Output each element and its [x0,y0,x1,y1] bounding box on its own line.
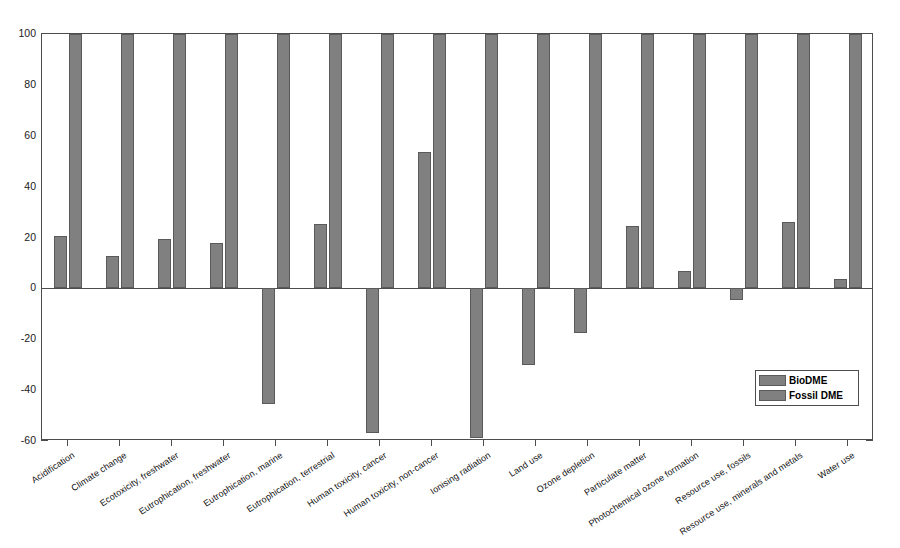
y-axis-labels: 100806040200-20-40-60 [0,0,36,548]
y-axis-tick-label: 100 [18,27,36,39]
x-axis-tick-label: Resource use, fossils [673,450,752,506]
x-axis-tick-label: Eutrophication, terrestrial [245,450,337,514]
x-axis-tick-label: Eutrophication, freshwater [137,450,232,517]
x-axis-tick-mark [639,440,640,446]
bar [626,226,639,288]
bar [121,34,134,288]
legend-entry-biodme: BioDME [759,373,855,388]
y-axis-tick-mark [41,440,48,441]
x-axis-tick-label: Water use [816,450,856,481]
x-axis-tick-label: Acidification [30,450,77,485]
x-axis-tick-label: Photochemical ozone formation [587,450,701,529]
x-axis-tick-label: Human toxicity, cancer [305,450,388,509]
bar [173,34,186,288]
bar [849,34,862,288]
legend-label-biodme: BioDME [789,375,827,386]
y-axis-tick-label: 60 [24,129,36,141]
x-axis-tick-mark [795,440,796,446]
bar [745,34,758,288]
x-axis-tick-mark [275,440,276,446]
chart-figure: 100806040200-20-40-60 AcidificationClima… [0,0,900,548]
y-axis-tick-label: -60 [21,434,36,446]
bar [433,34,446,288]
bar [693,34,706,288]
bar [834,279,847,288]
x-axis-tick-mark [431,440,432,446]
x-axis-tick-label: Ionising radiation [428,450,492,496]
x-axis-tick-label: Ozone depletion [535,450,597,495]
x-axis-tick-mark [379,440,380,446]
x-axis-tick-mark [171,440,172,446]
x-axis-tick-mark [119,440,120,446]
x-axis-tick-mark [587,440,588,446]
bar [678,271,691,289]
x-axis-tick-mark [743,440,744,446]
bar [574,288,587,333]
bar [418,152,431,289]
bar [730,288,743,299]
x-axis-tick-mark [483,440,484,446]
chart-legend: BioDME Fossil DME [755,370,859,406]
bar [314,224,327,288]
bar [262,288,275,404]
x-axis-tick-mark [327,440,328,446]
y-axis-tick-label: 80 [24,78,36,90]
x-axis-tick-label: Ecotoxicity, freshwater [98,450,180,508]
bar [277,34,290,288]
bar [782,222,795,288]
x-axis-tick-label: Resource use, minerals and metals [678,450,805,537]
y-axis-tick-mark [866,440,873,441]
bar [158,239,171,288]
bar [210,243,223,289]
bar [329,34,342,288]
legend-label-fossil-dme: Fossil DME [789,390,843,401]
legend-entry-fossil-dme: Fossil DME [759,388,855,403]
bar [797,34,810,288]
bar [366,288,379,433]
bar [69,34,82,288]
y-axis-tick-label: 40 [24,180,36,192]
bar [589,34,602,288]
x-axis-tick-mark [535,440,536,446]
y-axis-tick-label: -40 [21,383,36,395]
bar [537,34,550,288]
y-axis-tick-label: -20 [21,332,36,344]
bar [106,256,119,289]
x-axis-tick-label: Eutrophication, marine [202,450,285,509]
y-axis-tick-label: 0 [30,281,36,293]
x-axis-tick-mark [223,440,224,446]
x-axis-tick-label: Human toxicity, non-cancer [342,450,441,519]
bar [522,288,535,364]
bar [225,34,238,288]
x-axis-tick-mark [691,440,692,446]
legend-swatch-biodme [759,375,786,386]
x-axis-tick-label: Land use [507,450,544,479]
zero-baseline [42,288,872,289]
x-axis-tick-mark [67,440,68,446]
legend-swatch-fossil-dme [759,390,786,401]
x-axis-tick-label: Climate change [69,450,128,493]
plot-area [41,33,873,440]
x-axis-tick-label: Particulate matter [582,450,648,498]
bar [641,34,654,288]
bar [470,288,483,438]
bar [381,34,394,288]
y-axis-tick-label: 20 [24,231,36,243]
x-axis-tick-mark [847,440,848,446]
bar [54,236,67,288]
bar [485,34,498,288]
